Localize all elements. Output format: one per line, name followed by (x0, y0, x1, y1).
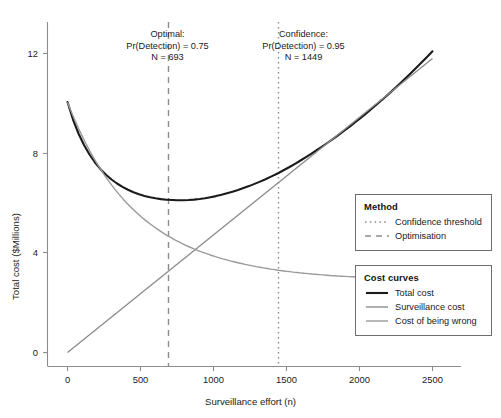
solid-line-icon (364, 287, 390, 299)
legend-item-total-cost[interactable]: Total cost (364, 286, 483, 300)
legend-item-label: Optimisation (395, 231, 446, 241)
legend-item-surveillance-cost[interactable]: Surveillance cost (364, 300, 483, 314)
x-axis-ticks (68, 367, 433, 372)
solid-line-icon (364, 301, 390, 313)
x-axis-title: Surveillance effort (n) (0, 396, 501, 407)
final-cost-of-being-wrong (68, 102, 433, 279)
legend-item-cost-of-being-wrong[interactable]: Cost of being wrong (364, 314, 483, 328)
y-axis-title: Total cost ($Millions) (10, 213, 21, 300)
x-tick-label-2500: 2500 (412, 374, 453, 385)
legend-item-confidence-threshold[interactable]: Confidence threshold (364, 215, 483, 229)
confidence-annotation-line2: Pr(Detection) = 0.95 (196, 41, 411, 53)
confidence-annotation: Confidence: Pr(Detection) = 0.95 N = 144… (196, 29, 411, 64)
legend-method-title: Method (364, 201, 483, 212)
dotted-line-icon (364, 216, 390, 228)
x-tick-label-1500: 1500 (266, 374, 307, 385)
x-tick-label-500: 500 (120, 374, 161, 385)
legend-method: Method Confidence threshold Optimisation (355, 194, 492, 251)
x-tick-label-1000: 1000 (193, 374, 234, 385)
solid-line-icon (364, 315, 390, 327)
y-axis-ticks (43, 54, 48, 353)
y-tick-label-4: 4 (18, 247, 38, 258)
chart-figure: 12 8 4 0 0 500 1000 1500 2000 2500 Surve… (0, 0, 501, 418)
confidence-annotation-line3: N = 1449 (196, 52, 411, 64)
y-tick-label-12: 12 (18, 48, 38, 59)
dashed-line-icon (364, 230, 390, 242)
confidence-annotation-line1: Confidence: (196, 29, 411, 41)
x-tick-label-0: 0 (47, 374, 88, 385)
legend-cost-curves-title: Cost curves (364, 272, 483, 283)
y-tick-label-8: 8 (18, 148, 38, 159)
x-tick-label-2000: 2000 (339, 374, 380, 385)
curves-final-layer (68, 102, 433, 279)
legend-item-label: Surveillance cost (395, 302, 464, 312)
legend-cost-curves: Cost curves Total cost Surveillance cost (355, 265, 492, 336)
legend-item-optimisation[interactable]: Optimisation (364, 229, 483, 243)
curve-total-cost-final (68, 51, 433, 200)
y-tick-label-0: 0 (18, 347, 38, 358)
legend-item-label: Total cost (395, 288, 434, 298)
legend-item-label: Confidence threshold (395, 217, 482, 227)
legend-item-label: Cost of being wrong (395, 316, 477, 326)
